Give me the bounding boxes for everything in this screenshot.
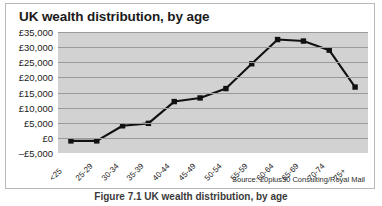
- data-point-marker: [223, 86, 228, 91]
- figure-caption: Figure 7.1 UK wealth distribution, by ag…: [0, 191, 382, 202]
- data-point-marker: [68, 138, 73, 143]
- x-axis-tick-label: 25-29: [74, 162, 95, 183]
- chart-frame: UK wealth distribution, by age £35,000£3…: [5, 3, 375, 189]
- data-point-marker: [301, 38, 306, 43]
- x-axis-tick-label: 50-54: [203, 162, 224, 183]
- gridline: [58, 93, 368, 94]
- y-axis: £35,000£30,000£25,000£20,000£15,000£10,0…: [6, 32, 56, 153]
- figure-container: UK wealth distribution, by age £35,000£3…: [0, 0, 382, 206]
- y-axis-tick-label: £0: [42, 132, 53, 143]
- x-axis-tick-label: 45-49: [177, 162, 198, 183]
- gridline: [58, 108, 368, 109]
- plot-area: [58, 32, 368, 153]
- gridline: [58, 138, 368, 139]
- y-axis-tick-label: £35,000: [19, 27, 53, 38]
- x-axis-tick-label: <25: [48, 167, 64, 183]
- y-axis-tick-label: £25,000: [19, 57, 53, 68]
- data-point-marker: [94, 138, 99, 143]
- x-axis-tick-label: 35-39: [125, 162, 146, 183]
- gridline: [58, 77, 368, 78]
- gridline: [58, 47, 368, 48]
- series-line: [71, 40, 355, 141]
- gridline: [58, 32, 368, 33]
- source-note: Source: 20plus30 Consulting/Royal Mail: [232, 175, 365, 184]
- y-axis-tick-label: £10,000: [19, 102, 53, 113]
- y-axis-tick-label: £20,000: [19, 72, 53, 83]
- chart-title: UK wealth distribution, by age: [19, 9, 210, 24]
- x-axis-tick-label: 40-44: [151, 162, 172, 183]
- data-point-marker: [275, 37, 280, 42]
- gridline: [58, 123, 368, 124]
- data-point-marker: [120, 123, 125, 128]
- gridline: [58, 62, 368, 63]
- x-axis-tick-label: 30-34: [99, 162, 120, 183]
- y-axis-tick-label: £5,000: [24, 117, 53, 128]
- data-point-marker: [352, 84, 357, 89]
- data-point-marker: [327, 47, 332, 52]
- y-axis-tick-label: £15,000: [19, 87, 53, 98]
- data-point-marker: [197, 95, 202, 100]
- x-axis: <2525-2930-3435-3940-4445-4950-5455-5960…: [58, 153, 368, 193]
- y-axis-tick-label: £30,000: [19, 42, 53, 53]
- data-point-marker: [172, 99, 177, 104]
- y-axis-tick-label: –£5,000: [19, 148, 53, 159]
